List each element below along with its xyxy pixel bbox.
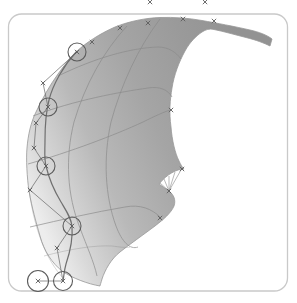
surface-canvas[interactable] bbox=[0, 0, 297, 303]
cad-viewport[interactable] bbox=[0, 0, 297, 303]
